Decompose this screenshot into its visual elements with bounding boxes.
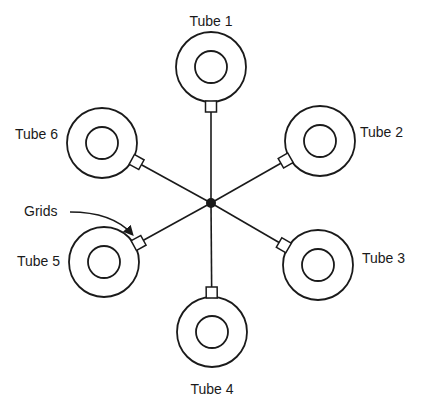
tube-5-label: Tube 5 (17, 253, 60, 269)
tube-1 (176, 32, 246, 112)
tube-grid-diagram: Grids Tube 1Tube 2Tube 3Tube 4Tube 5Tube… (0, 0, 425, 408)
grids-label: Grids (24, 203, 57, 219)
tube-outer-ring (177, 297, 247, 367)
wire-to-tube-5 (143, 203, 211, 240)
tube-2 (278, 106, 355, 176)
tube-outer-ring (285, 106, 355, 176)
central-junction (206, 198, 216, 208)
tube-outer-ring (176, 32, 246, 102)
tube-4 (177, 287, 247, 367)
tube-4-label: Tube 4 (190, 381, 233, 397)
wire-to-tube-2 (211, 163, 281, 203)
tube-6-label: Tube 6 (15, 126, 58, 142)
tube-1-label: Tube 1 (189, 13, 232, 29)
tube-2-label: Tube 2 (360, 124, 403, 140)
grid-box (206, 287, 217, 298)
wire-to-tube-4 (211, 203, 212, 287)
wire-to-tube-3 (211, 203, 279, 242)
grid-box (206, 101, 217, 112)
wire-to-tube-6 (141, 165, 211, 203)
tube-3-label: Tube 3 (362, 250, 405, 266)
tube-outer-ring (283, 230, 353, 300)
tube-outer-ring (69, 227, 139, 297)
tube-6 (67, 108, 144, 178)
tube-outer-ring (67, 108, 137, 178)
tube-5 (69, 227, 146, 297)
tube-3 (276, 230, 353, 300)
